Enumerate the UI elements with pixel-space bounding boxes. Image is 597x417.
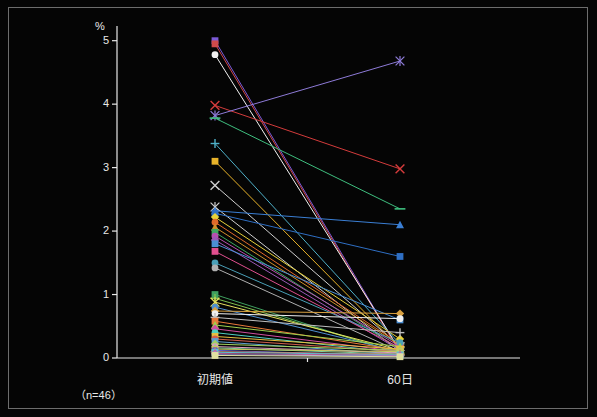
data-point-marker-cross — [211, 181, 220, 190]
chart-plot-svg — [0, 0, 597, 417]
data-point-marker-cross — [211, 101, 220, 110]
data-point-marker-square — [397, 353, 404, 360]
data-point-marker-square — [212, 40, 219, 47]
data-point-marker-plus — [396, 328, 405, 337]
series-line — [212, 229, 404, 353]
data-point-marker-star — [396, 56, 405, 66]
data-point-marker-square — [212, 240, 219, 247]
series-line — [211, 139, 405, 348]
data-point-marker-circle — [212, 264, 219, 271]
data-point-marker-square — [212, 248, 219, 255]
data-point-marker-square — [212, 352, 219, 359]
axes-group — [112, 26, 520, 362]
series-line — [211, 213, 404, 343]
series-line — [211, 101, 405, 173]
series-line — [211, 56, 405, 121]
data-point-marker-square — [212, 158, 219, 165]
data-point-marker-circle — [212, 51, 219, 58]
chart-figure: % 0 1 2 3 4 5 初期値 60日 （n=46） — [0, 0, 597, 417]
series-group — [210, 37, 406, 360]
data-point-marker-circle — [397, 315, 404, 322]
data-point-marker-cross — [396, 164, 405, 173]
series-line — [211, 207, 404, 228]
data-point-marker-square — [397, 253, 404, 260]
